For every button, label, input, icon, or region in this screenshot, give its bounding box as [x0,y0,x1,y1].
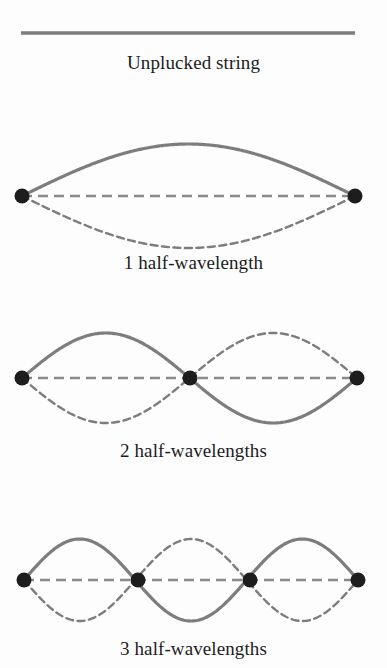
caption-mode-3: 3 half-wavelengths [0,638,387,660]
node-dot [348,189,363,204]
node-dot [17,573,32,588]
node-dot [15,371,30,386]
caption-mode-1: 1 half-wavelength [0,252,387,274]
node-dot [351,573,366,588]
node-dot [350,371,365,386]
node-dot [131,573,146,588]
string-curve-solid [22,144,355,196]
node-dot [15,189,30,204]
caption-mode-2: 2 half-wavelengths [0,440,387,462]
node-dot [243,573,258,588]
node-dot [183,371,198,386]
caption-unplucked-string: Unplucked string [0,52,387,74]
string-curve-dashed [22,196,355,248]
standing-wave-figure: Unplucked string 1 half-wavelength 2 hal… [0,0,387,668]
